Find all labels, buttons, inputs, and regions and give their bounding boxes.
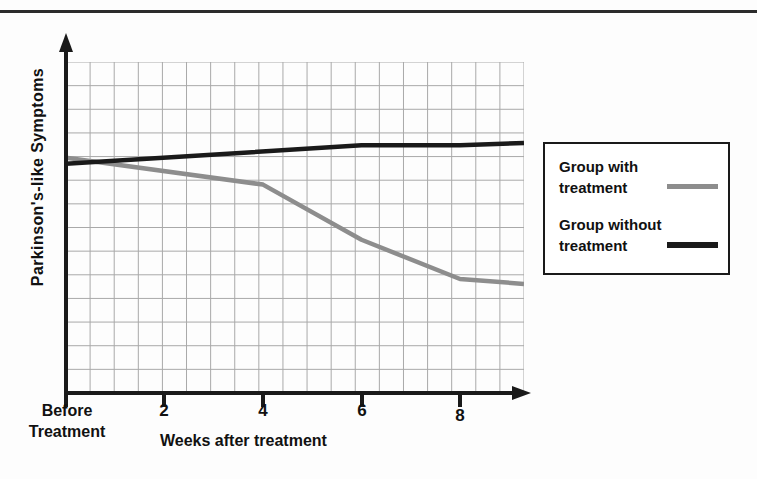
x-tick-label-2: 2 bbox=[144, 401, 184, 421]
legend-label-with-treatment: Group with treatment bbox=[559, 156, 669, 198]
x-tick-label-8: 8 bbox=[440, 406, 480, 426]
legend-swatch-without-treatment bbox=[667, 242, 718, 248]
x-axis-arrowhead bbox=[512, 386, 531, 400]
chart-page: Parkinson's-like Symptoms Before Treatme… bbox=[0, 0, 757, 479]
x-axis-title: Weeks after treatment bbox=[160, 432, 327, 450]
chart-axes bbox=[40, 28, 550, 413]
x-tick-label-before-treatment: Before Treatment bbox=[26, 400, 108, 442]
x-tick-label-before: Before bbox=[26, 400, 108, 421]
x-tick-label-4: 4 bbox=[243, 401, 283, 421]
x-tick-label-6: 6 bbox=[342, 401, 382, 421]
legend-item-with-treatment: Group with treatment bbox=[545, 152, 728, 210]
page-top-rule bbox=[0, 10, 757, 13]
y-axis-title: Parkinson's-like Symptoms bbox=[29, 47, 47, 307]
x-tick-label-treatment: Treatment bbox=[26, 421, 108, 442]
legend-label-without-treatment: Group without treatment bbox=[559, 214, 669, 256]
chart-legend: Group with treatment Group without treat… bbox=[543, 142, 730, 275]
legend-item-without-treatment: Group without treatment bbox=[545, 210, 728, 268]
y-axis-arrowhead bbox=[59, 33, 73, 52]
legend-swatch-with-treatment bbox=[667, 184, 718, 189]
